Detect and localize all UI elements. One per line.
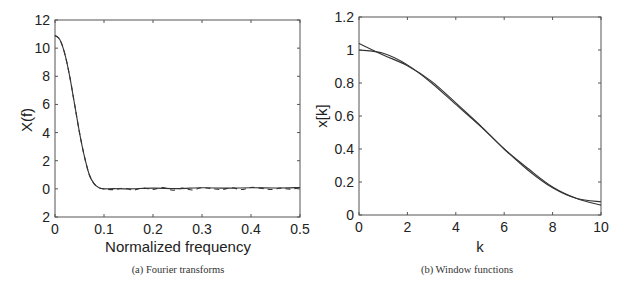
caption: (b) Window functions	[421, 264, 513, 276]
y-tick-label: 6	[42, 96, 50, 112]
series-line	[359, 50, 601, 202]
x-tick-label: 4	[452, 219, 460, 235]
x-tick-label: 0.4	[241, 221, 261, 237]
x-tick-label: 6	[500, 219, 508, 235]
x-tick-label: 0.1	[94, 221, 114, 237]
plot-lines	[55, 35, 300, 190]
series-line	[55, 35, 300, 190]
y-tick-label: 1	[346, 42, 354, 58]
x-tick-labels: 00.10.20.30.40.5	[51, 20, 310, 237]
y-tick-label: 0.4	[335, 141, 355, 157]
x-tick-label: 2	[404, 219, 412, 235]
x-tick-label: 0.2	[143, 221, 163, 237]
x-tick-label: 8	[549, 219, 557, 235]
series-line	[55, 35, 300, 188]
x-tick-labels: 0246810	[355, 17, 609, 235]
y-tick-labels: 1.210.80.60.40.20	[335, 9, 601, 223]
axes-box	[359, 17, 601, 215]
y-tick-labels: 1210864202	[34, 12, 300, 225]
y-axis-label: x[k]	[313, 104, 330, 127]
y-axis-label: X(f)	[18, 108, 35, 132]
y-tick-label: 2	[42, 153, 50, 169]
x-tick-label: 0.5	[290, 221, 310, 237]
y-tick-label: 1.2	[335, 9, 355, 25]
series-line	[359, 43, 601, 205]
plot-lines	[359, 43, 601, 205]
y-tick-label: 0.8	[335, 75, 355, 91]
x-tick-label: 0	[355, 219, 363, 235]
figure: 1210864202 00.10.20.30.40.5 X(f) Normali…	[0, 0, 626, 289]
y-tick-label: 8	[42, 68, 50, 84]
x-tick-label: 0.3	[192, 221, 212, 237]
x-axis-label: Normalized frequency	[105, 238, 251, 255]
chart-fourier-transforms: 1210864202 00.10.20.30.40.5 X(f) Normali…	[18, 12, 310, 276]
y-tick-label: 12	[34, 12, 50, 28]
y-tick-label: 0.2	[335, 174, 355, 190]
y-tick-label: 0.6	[335, 108, 355, 124]
x-tick-label: 10	[593, 219, 609, 235]
y-tick-label: 2	[42, 209, 50, 225]
y-tick-label: 0	[42, 181, 50, 197]
x-tick-label: 0	[51, 221, 59, 237]
chart-window-functions: 1.210.80.60.40.20 0246810 x[k] k (b) Win…	[313, 9, 609, 276]
y-tick-label: 0	[346, 207, 354, 223]
y-tick-label: 4	[42, 125, 50, 141]
y-tick-label: 10	[34, 40, 50, 56]
x-axis-label: k	[476, 238, 484, 255]
caption: (a) Fourier transforms	[132, 264, 225, 276]
